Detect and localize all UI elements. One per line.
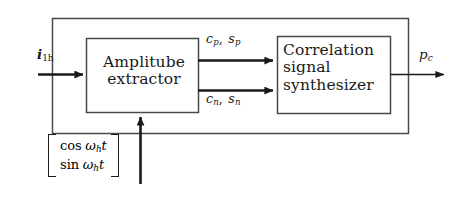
left-bracket-icon	[48, 134, 56, 177]
sp-subscript: p	[235, 37, 241, 47]
sp-symbol: s	[228, 31, 234, 46]
correlation-synthesizer-line2: signal	[283, 59, 389, 76]
correlation-synthesizer-line3: synthesizer	[283, 77, 389, 94]
correlation-signal-synthesizer-label: Correlation signal synthesizer	[283, 42, 389, 94]
cos-function: cos	[60, 138, 82, 153]
cp-symbol: c	[206, 31, 213, 46]
block-diagram: Amplitube extractor Correlation signal s…	[0, 0, 465, 205]
amplitube-extractor-line1: Amplitube	[92, 54, 196, 71]
time-variable-sin: t	[99, 157, 104, 172]
amplitube-extractor-label: Amplitube extractor	[92, 54, 196, 89]
sn-subscript: n	[235, 97, 241, 107]
signal-separator-1: ,	[219, 91, 224, 106]
sin-function: sin	[60, 157, 79, 172]
reference-vector-label: cosωht sinωht	[48, 134, 119, 177]
reference-vector-rows: cosωht sinωht	[56, 134, 111, 177]
time-variable-cos: t	[102, 138, 107, 153]
omega-symbol-cos: ω	[82, 138, 96, 153]
reference-vector-row-cos: cosωht	[60, 137, 107, 156]
omega-symbol-sin: ω	[79, 157, 93, 172]
signal-separator-0: ,	[219, 31, 224, 46]
amplitube-extractor-line2: extractor	[92, 71, 196, 88]
sn-symbol: s	[228, 91, 234, 106]
right-bracket-icon	[111, 134, 119, 177]
input-signal-label: i1h	[37, 47, 54, 63]
positive-sequence-signal-label: cp, sp	[206, 32, 241, 48]
correlation-synthesizer-line1: Correlation	[283, 42, 389, 59]
negative-sequence-signal-label: cn, sn	[206, 92, 241, 108]
output-symbol: p	[419, 46, 428, 62]
input-subscript: 1h	[42, 53, 54, 63]
reference-vector-row-sin: sinωht	[60, 156, 107, 175]
output-signal-label: pc	[419, 47, 433, 63]
cn-symbol: c	[206, 91, 213, 106]
output-subscript: c	[428, 53, 433, 63]
